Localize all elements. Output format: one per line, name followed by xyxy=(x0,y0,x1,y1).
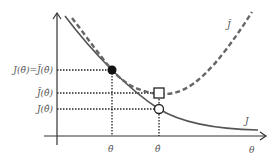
marker-open-circle xyxy=(155,105,164,114)
marker-filled-circle xyxy=(108,66,117,75)
x-label-theta-bar: θ̄ xyxy=(108,144,113,154)
x-axis-label-theta: θ xyxy=(249,145,254,155)
y-label-Jtilde-theta-hat: J̃(θ̂) xyxy=(0,88,53,98)
y-label-J-theta-bar: J(θ̄)=J̃(θ̄) xyxy=(0,65,53,75)
curve-label-J-tilde: J̃ xyxy=(227,20,231,30)
diagram-figure xyxy=(0,0,277,163)
guide-lines xyxy=(57,70,159,136)
marker-open-square xyxy=(154,88,164,98)
y-label-J-theta-hat: J(θ̂) xyxy=(0,104,53,114)
curve-label-J: J xyxy=(245,116,249,126)
x-label-theta-hat: θ̂ xyxy=(155,144,160,154)
curve-J-tilde xyxy=(72,12,252,94)
